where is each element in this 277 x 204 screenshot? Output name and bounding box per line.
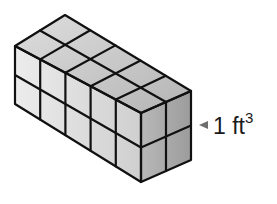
unit-cube-prism-diagram bbox=[0, 0, 277, 204]
label-number: 1 bbox=[213, 113, 226, 139]
label-unit: ft bbox=[232, 113, 245, 139]
unit-cube-label: 1 ft3 bbox=[213, 112, 253, 138]
label-exponent: 3 bbox=[245, 109, 253, 126]
pointer-arrow-icon bbox=[199, 121, 208, 129]
